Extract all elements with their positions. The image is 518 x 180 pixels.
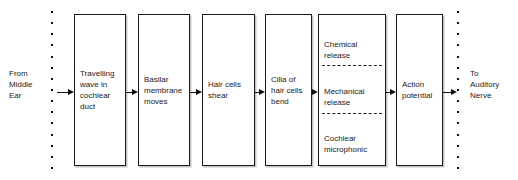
process-box-hair-cells-shear: Hair cells shear bbox=[202, 14, 255, 166]
rail-dot bbox=[51, 122, 53, 124]
arrow-box-6-to-auditory-nerve bbox=[443, 89, 457, 96]
rail-dot bbox=[457, 100, 459, 102]
arrow-box-1-to-box-2 bbox=[126, 89, 138, 96]
left-boundary-dotted-line bbox=[51, 11, 54, 169]
arrow-box-3-to-box-4 bbox=[255, 89, 265, 96]
compartment-divider-2 bbox=[322, 113, 382, 114]
to-auditory-nerve-label: To Auditory Nerve bbox=[470, 68, 516, 101]
process-box-label: Action potential bbox=[402, 79, 439, 101]
rail-dot bbox=[457, 22, 459, 24]
process-box-label: Hair cells shear bbox=[208, 79, 251, 101]
arrow-box-5-to-box-6 bbox=[386, 89, 396, 96]
arrow-box-2-to-box-3 bbox=[190, 89, 202, 96]
rail-dot bbox=[457, 156, 459, 158]
rail-dot bbox=[457, 111, 459, 113]
rail-dot bbox=[51, 111, 53, 113]
rail-dot bbox=[51, 67, 53, 69]
rail-dot bbox=[457, 67, 459, 69]
compartment-group: Chemical release Mechanical release Coch… bbox=[319, 15, 385, 165]
arrow-from-middle-ear-to-box-1 bbox=[57, 89, 74, 96]
rail-dot bbox=[51, 78, 53, 80]
compartment-chemical-release: Chemical release bbox=[324, 39, 382, 61]
rail-dot bbox=[51, 100, 53, 102]
rail-dot bbox=[51, 33, 53, 35]
rail-dot bbox=[457, 44, 459, 46]
rail-dot bbox=[51, 156, 53, 158]
rail-dot bbox=[457, 11, 459, 13]
rail-dot bbox=[51, 89, 53, 91]
rail-dot bbox=[457, 89, 459, 91]
process-box-travelling-wave: Travelling wave in cochlear duct bbox=[74, 14, 126, 166]
rail-dot bbox=[457, 33, 459, 35]
process-box-basilar-membrane: Basilar membrane moves bbox=[138, 14, 190, 166]
process-box-cilia-bend: Cilia of hair cells bend bbox=[265, 14, 312, 166]
rail-dot bbox=[51, 56, 53, 58]
process-box-release-compartments: Chemical release Mechanical release Coch… bbox=[318, 14, 386, 166]
cochlear-transduction-flowchart: From Middle Ear Travelling wave in cochl… bbox=[0, 0, 518, 180]
rail-dot bbox=[51, 145, 53, 147]
rail-dot bbox=[457, 56, 459, 58]
compartment-cochlear-microphonic: Cochlear microphonic bbox=[324, 133, 382, 155]
from-middle-ear-label: From Middle Ear bbox=[9, 68, 45, 101]
process-box-label: Cilia of hair cells bend bbox=[271, 74, 308, 107]
rail-dot bbox=[51, 134, 53, 136]
rail-dot bbox=[51, 167, 53, 169]
process-box-action-potential: Action potential bbox=[396, 14, 443, 166]
process-box-label: Travelling wave in cochlear duct bbox=[80, 68, 122, 112]
rail-dot bbox=[457, 134, 459, 136]
process-box-label: Basilar membrane moves bbox=[144, 74, 186, 107]
right-boundary-dotted-line bbox=[457, 11, 460, 169]
compartment-mechanical-release: Mechanical release bbox=[324, 86, 382, 108]
rail-dot bbox=[51, 22, 53, 24]
rail-dot bbox=[457, 122, 459, 124]
compartment-divider-1 bbox=[322, 65, 382, 66]
rail-dot bbox=[457, 78, 459, 80]
rail-dot bbox=[457, 167, 459, 169]
rail-dot bbox=[51, 44, 53, 46]
rail-dot bbox=[457, 145, 459, 147]
rail-dot bbox=[51, 11, 53, 13]
